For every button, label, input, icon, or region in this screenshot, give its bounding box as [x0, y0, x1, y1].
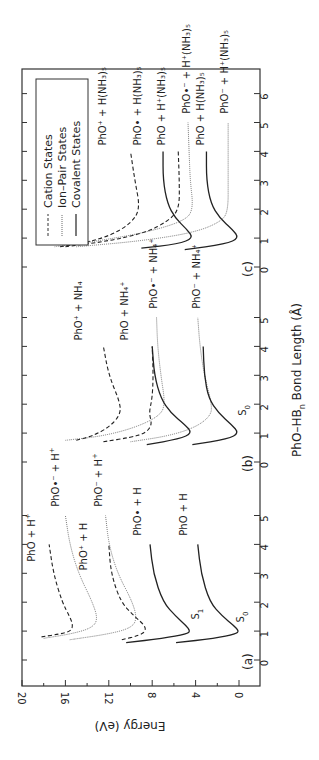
bond-tick-label: 4 [259, 346, 270, 352]
curve-label: PhO⁻ + NH₄⁺ [191, 244, 202, 309]
curve-label: PhO⁻ + H⁺(NH₃)₅ [219, 30, 230, 114]
bond-tick-label: 1 [259, 631, 270, 637]
panel-label-b: (b) [241, 455, 255, 472]
bond-length-axis-title: PhO–HBn Bond Length (Å) [289, 303, 307, 457]
bond-tick-label: 2 [259, 209, 270, 215]
curve-label: PhO•⁻ + H+ [48, 447, 61, 507]
energy-axis-title: Energy (eV) [95, 719, 166, 733]
curve-label: PhO + H [178, 493, 189, 536]
curve-dotted [131, 318, 212, 442]
panel-label-c: (c) [241, 261, 255, 277]
legend: Cation States Ion–Pair States Covalent S… [36, 79, 88, 245]
energy-tick-label: 4 [190, 692, 201, 698]
bond-tick-label: 1 [259, 238, 270, 244]
curve-label: PhO⁺ + NH₄ [73, 281, 84, 340]
bond-tick-label: 1 [259, 433, 270, 439]
curve-label: PhO + H+ [24, 513, 37, 562]
bond-tick-label: 3 [259, 375, 270, 381]
bond-tick-label: 3 [259, 180, 270, 186]
bond-tick-label: 4 [259, 151, 270, 157]
legend-label-cation: Cation States [42, 134, 55, 208]
state-label: S1 [190, 609, 205, 620]
bond-tick-label: 5 [259, 515, 270, 521]
energy-curves-chart: 201612840 0123450123450123456 PhO + H+Ph… [0, 0, 319, 760]
curve-label: PhO• + H(NH₃)₅ [132, 66, 143, 145]
curve-dashed [76, 346, 120, 440]
energy-tick-label: 0 [233, 692, 244, 698]
legend-label-covalent: Covalent States [70, 121, 83, 208]
energy-tick-label: 12 [103, 692, 114, 705]
energy-axis-ticks: 201612840 [16, 680, 244, 705]
bond-tick-label: 4 [259, 544, 270, 550]
curve-solid [126, 544, 189, 642]
curve-dashed [42, 544, 73, 636]
bond-tick-label: 5 [259, 317, 270, 323]
state-label: S0 [235, 612, 250, 623]
curve-label: PhO + NH₄⁺ [119, 281, 130, 340]
energy-tick-label: 20 [16, 692, 27, 705]
bond-tick-label: 3 [259, 573, 270, 579]
bond-tick-label: 2 [259, 404, 270, 410]
curve-label: PhO⁺ + H(NH₃)₅ [97, 67, 108, 146]
curve-label: PhO + H(NH₃)₅ [195, 72, 206, 145]
curve-label: PhO⁺ + H [78, 523, 89, 571]
curve-label: PhO⁻ + H+ [91, 453, 104, 507]
panel-labels: (a)(b)(c) [241, 261, 255, 670]
curve-label: PhO•⁻ + H⁺(NH₃)₅ [181, 24, 192, 114]
curve-label: PhO + H⁺(NH₃)₅ [156, 67, 167, 146]
curve-solid [147, 346, 190, 444]
bond-tick-label: 5 [259, 122, 270, 128]
curve-label: PhO• + H [132, 487, 143, 535]
bond-tick-label: 0 [259, 267, 270, 273]
curve-dashed [103, 346, 153, 441]
curve-label: PhO•⁻ + NH₄⁺ [148, 238, 159, 308]
panel-label-a: (a) [241, 653, 255, 670]
curve-solid [176, 544, 238, 642]
curve-solid [192, 346, 236, 444]
bond-tick-label: 0 [259, 462, 270, 468]
state-label: S0 [237, 405, 252, 416]
energy-tick-label: 8 [146, 692, 157, 698]
bond-tick-label: 0 [259, 660, 270, 666]
bond-tick-label: 2 [259, 602, 270, 608]
legend-label-ion-pair: Ion–Pair States [56, 126, 69, 208]
energy-tick-label: 16 [59, 692, 70, 705]
bond-tick-label: 6 [259, 93, 270, 99]
